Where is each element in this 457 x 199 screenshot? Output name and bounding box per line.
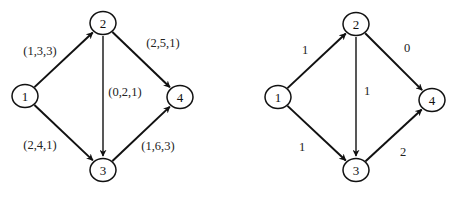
- edge-label-left-2-3: (0,2,1): [108, 85, 141, 99]
- nodes-layer: 12341234: [12, 12, 445, 182]
- edge-labels-layer: (1,3,3)(0,2,1)(2,5,1)(2,4,1)(1,6,3)11012: [23, 36, 410, 159]
- node-label: 3: [353, 163, 360, 178]
- edge-label-left-2-4: (2,5,1): [146, 36, 179, 50]
- edge-label-right-2-3: 1: [364, 84, 370, 98]
- node-right-1: 1: [265, 86, 291, 109]
- edge-right-1-to-3: [287, 106, 345, 161]
- edge-label-right-2-4: 0: [404, 41, 410, 55]
- node-left-4: 4: [167, 86, 193, 109]
- edge-label-left-1-3: (2,4,1): [23, 138, 56, 152]
- node-right-3: 3: [343, 159, 369, 182]
- node-label: 1: [275, 90, 282, 105]
- node-label: 4: [429, 93, 436, 108]
- node-label: 2: [100, 16, 107, 31]
- node-right-2: 2: [343, 13, 369, 36]
- edge-left-1-to-2: [34, 33, 92, 88]
- edge-right-3-to-4: [366, 109, 422, 161]
- edge-right-2-to-4: [365, 33, 422, 90]
- edge-label-right-1-2: 1: [302, 43, 308, 57]
- node-left-3: 3: [90, 159, 116, 182]
- node-left-1: 1: [12, 85, 38, 108]
- node-left-2: 2: [90, 12, 116, 35]
- node-label: 1: [22, 89, 29, 104]
- edge-label-left-1-2: (1,3,3): [23, 44, 56, 58]
- node-label: 4: [177, 90, 184, 105]
- edge-left-1-to-3: [34, 105, 92, 160]
- network-flow-diagram: 12341234 (1,3,3)(0,2,1)(2,5,1)(2,4,1)(1,…: [0, 0, 457, 199]
- node-right-4: 4: [419, 89, 445, 112]
- node-label: 2: [353, 17, 360, 32]
- edge-label-right-3-4: 2: [400, 145, 406, 159]
- edge-label-left-3-4: (1,6,3): [141, 139, 174, 153]
- edge-right-1-to-2: [287, 34, 345, 89]
- node-label: 3: [100, 163, 107, 178]
- edge-label-right-1-3: 1: [299, 140, 305, 154]
